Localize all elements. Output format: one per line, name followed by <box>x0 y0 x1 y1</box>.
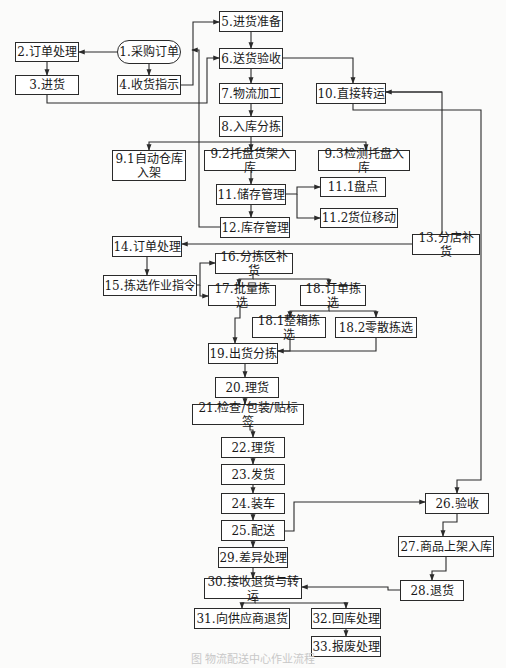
flow-node-n8[interactable]: 8.入库分拣 <box>219 116 283 137</box>
flow-node-n91[interactable]: 9.1自动仓库 入架 <box>112 150 186 181</box>
flow-node-n1[interactable]: 1.采购订单 <box>117 40 181 64</box>
flow-node-n31[interactable]: 31.向供应商退货 <box>194 608 290 629</box>
flow-node-n19[interactable]: 19.出货分拣 <box>208 343 278 364</box>
flow-node-n5[interactable]: 5.进货准备 <box>219 11 283 32</box>
flow-node-n12[interactable]: 12.库存管理 <box>220 217 290 238</box>
flow-node-n22[interactable]: 22.理货 <box>221 437 285 458</box>
flow-node-n3[interactable]: 3.进货 <box>15 75 79 95</box>
flow-node-n21[interactable]: 21.检查/包装/贴标签 <box>192 404 304 425</box>
flow-node-n10[interactable]: 10.直接转运 <box>316 83 386 104</box>
figure-caption: 图 物流配送中心作业流程 <box>0 650 506 666</box>
flow-node-n181[interactable]: 18.1整箱拣选 <box>252 317 326 338</box>
flow-node-n14[interactable]: 14.订单处理 <box>112 236 182 257</box>
connector-arrow <box>297 194 320 218</box>
flow-node-n32[interactable]: 32.回库处理 <box>311 608 381 629</box>
flow-node-n30[interactable]: 30.接收退货与转运 <box>204 578 302 599</box>
flow-node-n111[interactable]: 11.1盘点 <box>320 177 386 197</box>
flow-node-n18[interactable]: 18.订单拣选 <box>300 285 366 306</box>
flow-node-n25[interactable]: 25.配送 <box>221 520 285 541</box>
connector-arrow <box>283 58 353 83</box>
flow-node-n27[interactable]: 27.商品上架入库 <box>398 536 494 557</box>
flow-node-n2[interactable]: 2.订单处理 <box>15 42 79 62</box>
connector-arrow <box>285 502 425 531</box>
flow-node-n26[interactable]: 26.验收 <box>425 493 489 514</box>
flow-node-n13[interactable]: 13.分店补货 <box>412 234 480 255</box>
flow-node-n92[interactable]: 9.2托盘货架入库 <box>204 150 296 171</box>
flow-node-n29[interactable]: 29.差异处理 <box>218 547 288 568</box>
connector-arrow <box>235 306 240 343</box>
flow-node-n112[interactable]: 11.2货位移动 <box>320 208 398 228</box>
connector-arrow <box>181 22 219 85</box>
connector-arrow <box>200 285 208 296</box>
flow-node-n6[interactable]: 6.送货验收 <box>219 48 283 69</box>
flow-node-n15[interactable]: 15.拣选作业指令 <box>103 275 197 296</box>
flow-node-n7[interactable]: 7.物流加工 <box>219 83 283 104</box>
flow-node-n11[interactable]: 11.储存管理 <box>216 184 286 205</box>
connector-arrow <box>443 514 457 536</box>
connector-arrow <box>286 187 320 194</box>
flow-node-n17[interactable]: 17.批量拣选 <box>208 285 276 306</box>
flow-node-n28[interactable]: 28.退货 <box>400 580 464 601</box>
flow-node-n20[interactable]: 20.理货 <box>215 377 279 398</box>
flow-node-n4[interactable]: 4.收货指示 <box>117 75 181 95</box>
flow-node-n16[interactable]: 16.分拣区补货 <box>215 253 293 274</box>
connector-arrow <box>302 587 400 590</box>
connector-arrow <box>432 557 446 580</box>
flow-node-n93[interactable]: 9.3检测托盘入库 <box>318 150 410 171</box>
flow-node-n24[interactable]: 24.装车 <box>221 493 285 514</box>
flow-node-n182[interactable]: 18.2零散拣选 <box>335 317 417 338</box>
flowchart-canvas: 1.采购订单2.订单处理3.进货4.收货指示5.进货准备6.送货验收7.物流加工… <box>0 0 506 668</box>
flow-node-n23[interactable]: 23.发货 <box>221 464 285 485</box>
